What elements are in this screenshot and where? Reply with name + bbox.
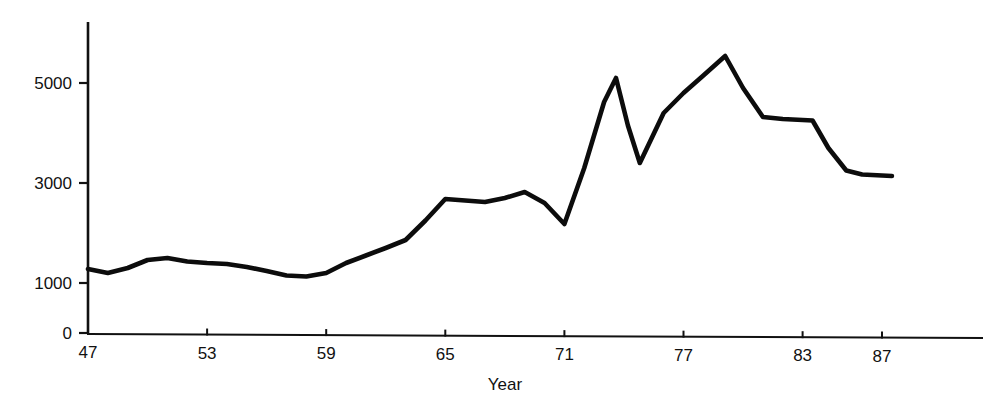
x-axis-title: Year bbox=[488, 375, 523, 394]
y-tick-label-3000: 3000 bbox=[34, 174, 72, 193]
x-tick-label-87: 87 bbox=[873, 347, 892, 366]
x-tick-label-65: 65 bbox=[436, 345, 455, 364]
plot-background bbox=[0, 0, 1006, 414]
y-tick-label-1000: 1000 bbox=[34, 274, 72, 293]
x-tick-label-77: 77 bbox=[674, 346, 693, 365]
x-tick-label-53: 53 bbox=[198, 344, 217, 363]
x-tick-label-71: 71 bbox=[555, 345, 574, 364]
x-tick-label-59: 59 bbox=[317, 344, 336, 363]
x-tick-label-47: 47 bbox=[79, 343, 98, 362]
y-tick-label-5000: 5000 bbox=[34, 74, 72, 93]
y-tick-label-0: 0 bbox=[63, 324, 72, 343]
line-chart-figure: 0100030005000 4753596571778387 Year bbox=[0, 0, 1006, 414]
x-tick-label-83: 83 bbox=[793, 346, 812, 365]
